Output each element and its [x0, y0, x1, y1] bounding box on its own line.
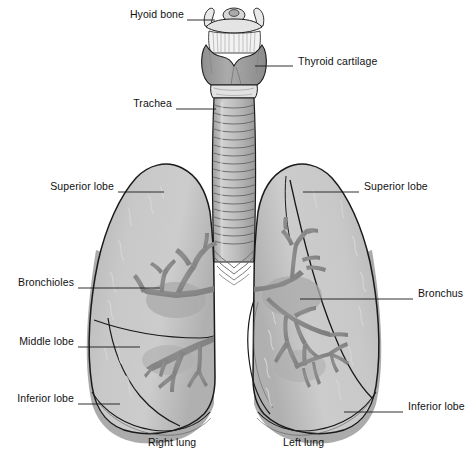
- label-inferior-lobe-left: Inferior lobe: [408, 400, 465, 412]
- thyrohyoid-membrane: [209, 31, 261, 53]
- label-trachea: Trachea: [22, 97, 172, 109]
- larynx-group: [202, 8, 267, 98]
- label-inferior-lobe-right: Inferior lobe: [0, 392, 74, 404]
- trachea-highlight: [221, 102, 222, 258]
- left-lung-group: [248, 164, 381, 443]
- caption-left-lung: Left lung: [283, 436, 324, 448]
- caption-right-lung: Right lung: [148, 436, 196, 448]
- label-hyoid-bone: Hyoid bone: [32, 8, 184, 20]
- label-middle-lobe: Middle lobe: [0, 335, 74, 347]
- label-superior-lobe-right: Superior lobe: [0, 180, 114, 192]
- label-superior-lobe-left: Superior lobe: [364, 180, 428, 192]
- respiratory-anatomy-figure: Hyoid bone Thyroid cartilage Trachea Sup…: [0, 0, 468, 468]
- label-thyroid-cartilage: Thyroid cartilage: [298, 55, 377, 67]
- cricoid-cartilage-shape: [211, 85, 258, 98]
- label-bronchioles: Bronchioles: [0, 276, 74, 288]
- trachea-group: [213, 98, 256, 285]
- right-lung-group: [87, 164, 217, 443]
- label-bronchus: Bronchus: [418, 287, 463, 299]
- hyoid-bone-shape: [204, 8, 264, 33]
